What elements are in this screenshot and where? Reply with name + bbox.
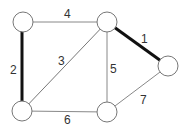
edge-label-5: 5	[110, 62, 117, 76]
node-e	[97, 102, 117, 122]
node-a	[13, 12, 33, 32]
edge-label-2: 2	[10, 63, 17, 77]
edge-label-6: 6	[64, 113, 71, 127]
edge-label-7: 7	[140, 93, 147, 107]
weighted-graph-diagram: 1 2 3 4 5 6 7	[0, 0, 183, 130]
node-d	[12, 101, 32, 121]
edge-label-3: 3	[58, 54, 65, 68]
edge-1	[107, 22, 168, 66]
edge-6	[22, 111, 107, 112]
node-b	[97, 12, 117, 32]
edge-label-1: 1	[141, 32, 148, 46]
edge-label-4: 4	[64, 7, 71, 21]
node-c	[158, 56, 178, 76]
